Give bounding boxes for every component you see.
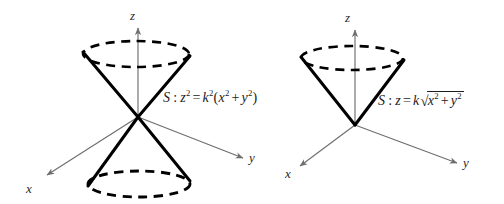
axis-label-z-left: z [130, 8, 135, 24]
equation-single-cone: S:z=k√x2+y2 [378, 91, 464, 110]
axis-label-x-right: x [285, 166, 291, 182]
double-cone-group [47, 28, 243, 197]
eq-left-close-paren: ) [253, 90, 258, 105]
cone-rim-top [83, 41, 189, 67]
eq-right-equals: = [401, 93, 413, 108]
axis-label-y-right: y [463, 155, 469, 171]
cone-surfaces-figure: z x y z x y S:z2=k2(x2+y2) S:z=k√x2+y2 [0, 0, 504, 204]
axis-label-x-left: x [26, 181, 32, 197]
cone-edge-lower-left [88, 117, 138, 186]
eq-left-plus: + [229, 90, 241, 105]
cone-rim-bottom [88, 171, 190, 197]
eq-right-radicand: x2+y2 [427, 91, 464, 109]
axis-y-right [355, 125, 457, 163]
eq-right-term2-exp: 2 [457, 91, 462, 101]
axis-x-right [300, 125, 355, 166]
eq-left-colon: : [170, 90, 180, 105]
eq-right-colon: : [385, 93, 395, 108]
eq-right-plus: + [439, 93, 451, 108]
eq-left-equals: = [191, 90, 203, 105]
cone-rim-right-top [301, 46, 403, 70]
eq-right-radical: √x2+y2 [419, 91, 463, 110]
axis-label-y-left: y [249, 150, 255, 166]
cone-edge-right-left [301, 57, 355, 125]
eq-left-lhs-exp: 2 [186, 88, 191, 98]
cone-edge-upper-right [138, 56, 190, 117]
axis-label-z-right: z [345, 10, 350, 26]
equation-double-cone: S:z2=k2(x2+y2) [163, 90, 257, 106]
axis-x-left [47, 117, 138, 175]
